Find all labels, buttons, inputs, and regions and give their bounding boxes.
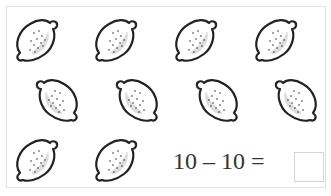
lemon-icon [91, 15, 139, 63]
subtraction-equation: 10 – 10 = [173, 148, 265, 175]
lemon-icon [12, 135, 60, 183]
lemon-icon [91, 135, 139, 183]
lemon-icon [12, 15, 60, 63]
answer-box[interactable] [294, 152, 324, 182]
lemon-icon [171, 15, 219, 63]
lemon-icon [251, 15, 299, 63]
lemon-icon [194, 75, 242, 123]
lemon-icon [114, 75, 162, 123]
lemon-icon [273, 75, 321, 123]
lemon-icon [34, 75, 82, 123]
